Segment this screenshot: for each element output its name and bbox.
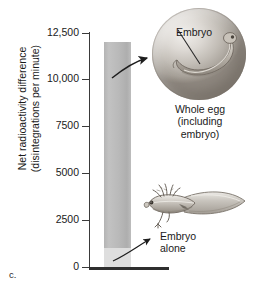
bar-whole-egg [104, 42, 131, 248]
figure-panel: 12,500 10,000 7500 5000 2500 0 Net radio… [0, 0, 255, 285]
y-tick-label-2500: 2500 [56, 214, 79, 225]
y-tick-label-7500: 7500 [56, 120, 79, 131]
x-axis-line [89, 267, 169, 270]
y-tick-label-0: 0 [73, 261, 79, 272]
whole-egg-caption: Whole egg (including embryo) [152, 103, 248, 140]
y-tick-label-12500: 12,500 [47, 27, 79, 38]
y-axis-title: Net radioactivity difference (disintegra… [16, 9, 41, 209]
leader-line-icon [152, 8, 246, 100]
embryo-alone-illustration [139, 182, 251, 232]
y-tick-label-10000: 10,000 [47, 73, 79, 84]
embryo-alone-label: Embryo alone [160, 230, 196, 255]
panel-letter: c. [9, 269, 16, 280]
embryo-label-egg: Embryo [176, 26, 212, 38]
whole-egg-illustration [152, 8, 246, 100]
larva-icon [139, 182, 251, 232]
bar-embryo-alone [104, 248, 131, 267]
y-tick-label-5000: 5000 [56, 167, 79, 178]
y-axis-line [89, 32, 90, 269]
